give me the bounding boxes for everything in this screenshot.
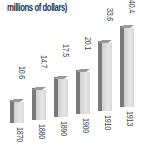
year-label: 1870: [15, 127, 25, 142]
bar-front-face: [58, 79, 68, 117]
value-label: 20.1: [83, 37, 93, 50]
value-label: 40.4: [127, 0, 137, 13]
bar-front-face: [80, 72, 90, 114]
year-label: 1900: [81, 118, 91, 133]
year-label: 1880: [37, 124, 47, 139]
chart-title: millions of dollars): [7, 2, 67, 13]
value-label: 10.6: [17, 66, 27, 79]
value-label: 33.6: [105, 8, 115, 21]
bar-front-face: [36, 90, 46, 120]
value-label: 14.7: [39, 55, 49, 68]
value-label: 17.5: [61, 44, 71, 57]
bar-front-face: [124, 28, 134, 107]
bar-front-face: [14, 102, 24, 123]
year-label: 1913: [125, 111, 135, 126]
year-label: 1890: [59, 121, 69, 136]
bar-front-face: [102, 43, 112, 111]
year-label: 1910: [103, 115, 113, 130]
